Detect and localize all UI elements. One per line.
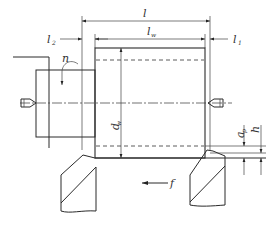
label-l1: l <box>233 33 237 46</box>
label-l1-sub: 1 <box>238 39 242 46</box>
label-l: l <box>143 7 147 20</box>
label-h: h <box>249 126 262 133</box>
label-n: n <box>62 52 69 65</box>
dimension-l2: l 2 <box>47 33 108 46</box>
dimension-l1: l 1 <box>210 33 242 46</box>
dimension-h: h <box>249 125 262 175</box>
rotation-arrow-icon: n <box>62 52 78 85</box>
label-l2-sub: 2 <box>51 39 56 46</box>
left-tool <box>61 155 96 212</box>
label-ap-sub: p <box>240 129 248 133</box>
dimension-l: l <box>82 7 210 21</box>
label-dw-sub: w <box>115 120 122 126</box>
label-l2: l <box>47 33 51 46</box>
label-lw-sub: w <box>151 31 157 38</box>
chuck <box>13 57 95 148</box>
extension-lines <box>82 16 210 150</box>
label-f: f <box>169 177 176 190</box>
dimension-lw: l w <box>95 25 205 39</box>
feed-arrow-icon: f <box>142 177 176 190</box>
turning-diagram: l l w l 2 l 1 <box>0 0 276 226</box>
